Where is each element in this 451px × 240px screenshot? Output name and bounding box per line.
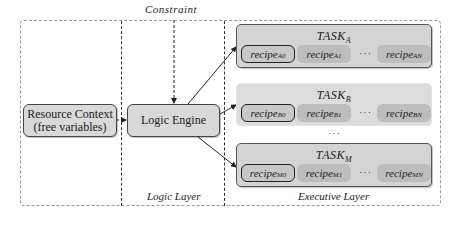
recipe-m-ellipsis: ··· (359, 167, 372, 178)
task-m-title: TASKM (237, 148, 431, 164)
executive-layer-label: Executive Layer (298, 190, 369, 202)
recipe-b0: recipeB0 (241, 104, 295, 122)
tasks-ellipsis: ··· (328, 128, 341, 139)
recipe-mn: recipeMN (377, 164, 431, 182)
logic-engine-label: Logic Engine (141, 114, 206, 127)
task-a-box: TASKA recipeA0 recipeA1 ··· recipeAN (236, 24, 432, 68)
recipe-b1: recipeB1 (297, 104, 351, 122)
recipe-a0: recipeA0 (241, 45, 295, 63)
task-b-box: TASKB recipeB0 recipeB1 ··· recipeBN (236, 83, 432, 126)
recipe-b-ellipsis: ··· (359, 107, 372, 118)
task-b-title: TASKB (237, 88, 431, 104)
recipe-an: recipeAN (377, 45, 431, 63)
resource-context-line1: Resource Context (27, 108, 113, 121)
task-m-box: TASKM recipeM0 recipeM1 ··· recipeMN (236, 143, 432, 187)
logic-engine-box: Logic Engine (127, 104, 220, 137)
recipe-a-ellipsis: ··· (359, 48, 372, 59)
recipe-a1: recipeA1 (297, 45, 351, 63)
resource-context-line2: (free variables) (34, 121, 107, 134)
logic-layer-label: Logic Layer (147, 190, 200, 202)
resource-context-box: Resource Context (free variables) (23, 104, 117, 137)
task-a-title: TASKA (237, 29, 431, 45)
recipe-bn: recipeBN (377, 104, 431, 122)
recipe-m0: recipeM0 (241, 164, 295, 182)
recipe-m1: recipeM1 (297, 164, 351, 182)
